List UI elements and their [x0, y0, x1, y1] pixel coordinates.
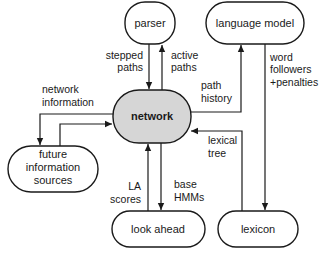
label-stepped-paths-1: stepped — [106, 49, 144, 61]
node-lexicon: lexicon — [218, 211, 298, 247]
node-future-line-1: future — [39, 148, 67, 160]
edge-network-information — [40, 114, 115, 145]
node-language-model-label: language model — [216, 17, 294, 29]
label-word-followers-3: +penalties — [270, 76, 318, 88]
label-word-followers-2: followers — [270, 63, 311, 75]
node-lexicon-label: lexicon — [241, 223, 275, 235]
node-look-ahead: look ahead — [112, 211, 205, 247]
node-language-model: language model — [206, 2, 304, 44]
node-parser-label: parser — [134, 17, 166, 29]
label-lexical-tree-2: tree — [208, 147, 226, 159]
label-network-information-1: network — [42, 83, 80, 95]
label-network-information-2: information — [42, 96, 94, 108]
node-network-label: network — [131, 110, 174, 122]
label-path-history-2: history — [201, 92, 233, 104]
decoder-architecture-diagram: parser language model network future inf… — [0, 0, 321, 253]
label-lexical-tree-1: lexical — [208, 134, 237, 146]
label-base-hmms-2: HMMs — [174, 191, 204, 203]
node-future-line-3: sources — [34, 174, 73, 186]
label-la-scores-2: scores — [110, 193, 141, 205]
node-parser: parser — [125, 2, 175, 44]
node-network: network — [113, 90, 191, 143]
edge-future-to-network — [60, 124, 112, 146]
label-stepped-paths-2: paths — [117, 61, 143, 73]
label-base-hmms-1: base — [174, 178, 197, 190]
label-la-scores-1: LA — [128, 180, 141, 192]
label-active-paths-1: active — [171, 49, 199, 61]
label-active-paths-2: paths — [171, 61, 197, 73]
node-future-line-2: information — [26, 161, 80, 173]
node-look-ahead-label: look ahead — [131, 223, 185, 235]
node-future-information-sources: future information sources — [8, 146, 98, 192]
label-path-history-1: path — [201, 79, 222, 91]
label-word-followers-1: word — [269, 51, 293, 63]
